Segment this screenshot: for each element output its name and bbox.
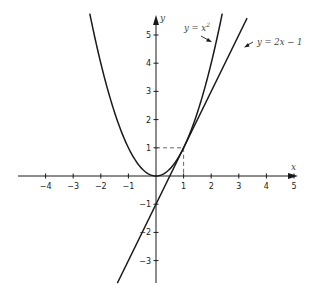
y-axis-arrow-icon xyxy=(153,15,159,25)
y-tick-label: −1 xyxy=(139,200,151,209)
y-axis-label: y xyxy=(159,13,166,23)
x-tick-label: −3 xyxy=(67,182,79,191)
x-axis-label: x xyxy=(291,162,296,172)
x-tick-label: 1 xyxy=(181,182,186,191)
y-tick-label: 2 xyxy=(146,116,151,125)
axes xyxy=(18,15,298,283)
x-tick-label: −4 xyxy=(40,182,52,191)
x-tick-label: 3 xyxy=(236,182,241,191)
plot-canvas: −4−3−2−112345−3−2−112345 y x y = x2 y = … xyxy=(0,0,312,297)
parabola-arrowhead-icon xyxy=(206,38,212,42)
curves xyxy=(90,14,247,284)
graph-figure: −4−3−2−112345−3−2−112345 y x y = x2 y = … xyxy=(0,0,312,297)
y-tick-label: 3 xyxy=(146,87,151,96)
x-tick-label: 4 xyxy=(264,182,269,191)
tick-labels: −4−3−2−112345−3−2−112345 xyxy=(40,31,297,266)
x-tick-label: 2 xyxy=(209,182,214,191)
line-equation-label: y = 2x − 1 xyxy=(256,37,302,47)
y-tick-label: −2 xyxy=(139,228,151,237)
parabola-equation-label: y = x2 xyxy=(183,21,210,33)
x-tick-label: 5 xyxy=(291,182,296,191)
y-tick-label: −3 xyxy=(139,257,151,266)
line-arrowhead-icon xyxy=(244,43,250,48)
y-tick-label: 4 xyxy=(146,59,151,68)
y-tick-label: 1 xyxy=(146,144,151,153)
tangent-line xyxy=(117,18,247,283)
y-tick-label: 5 xyxy=(146,31,151,40)
x-tick-label: −2 xyxy=(95,182,107,191)
dashed-guides xyxy=(156,148,184,176)
x-tick-label: −1 xyxy=(123,182,135,191)
x-axis-arrow-icon xyxy=(288,173,298,179)
